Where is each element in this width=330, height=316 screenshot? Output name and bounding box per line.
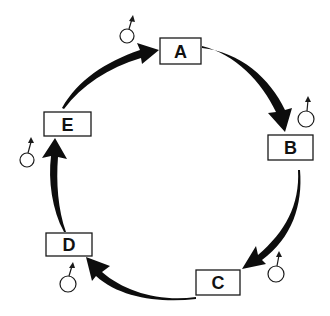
arrow-c-to-d (86, 257, 196, 300)
node-b: B (268, 135, 313, 160)
male-symbol-icon (20, 137, 34, 167)
node-b-label: B (284, 138, 297, 158)
male-symbol-icon (60, 262, 76, 292)
node-d: D (46, 233, 92, 256)
node-c-label: C (212, 273, 225, 293)
node-a-label: A (174, 42, 187, 62)
male-symbol-icon (120, 15, 135, 43)
node-d-label: D (63, 235, 76, 255)
node-a: A (160, 38, 201, 64)
node-e-label: E (61, 115, 73, 135)
arrow-d-to-e (42, 138, 67, 232)
arrow-e-to-a (62, 43, 159, 109)
node-e: E (44, 112, 91, 136)
male-symbol-icon (268, 251, 284, 282)
male-symbol-icon (298, 96, 314, 127)
arrow-a-to-b (202, 46, 292, 132)
node-c: C (196, 270, 240, 295)
cycle-diagram: A B C D E (0, 0, 330, 316)
arrow-b-to-c (242, 170, 300, 269)
